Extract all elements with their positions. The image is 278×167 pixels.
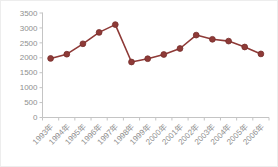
y-tick-label: 0 xyxy=(33,113,38,122)
data-point-marker xyxy=(64,51,70,57)
y-tick-label: 2000 xyxy=(20,53,38,62)
line-chart-svg: 05001000150020002500300035001993年1994年19… xyxy=(0,0,278,167)
data-point-marker xyxy=(80,41,86,47)
data-point-marker xyxy=(193,32,199,38)
data-point-marker xyxy=(177,46,183,52)
data-point-marker xyxy=(226,38,232,44)
y-tick-label: 500 xyxy=(24,98,38,107)
data-point-marker xyxy=(210,36,216,42)
data-point-marker xyxy=(96,30,102,36)
y-tick-label: 3000 xyxy=(20,24,38,33)
data-point-marker xyxy=(161,52,167,58)
data-point-marker xyxy=(145,56,151,62)
chart-container: 05001000150020002500300035001993年1994年19… xyxy=(0,0,278,167)
y-tick-label: 3500 xyxy=(20,9,38,18)
data-point-marker xyxy=(258,51,264,57)
data-point-marker xyxy=(242,44,248,50)
y-tick-label: 2500 xyxy=(20,39,38,48)
y-tick-label: 1000 xyxy=(20,83,38,92)
data-point-marker xyxy=(48,56,54,62)
y-tick-label: 1500 xyxy=(20,68,38,77)
data-point-marker xyxy=(112,22,118,28)
data-point-marker xyxy=(129,59,135,65)
